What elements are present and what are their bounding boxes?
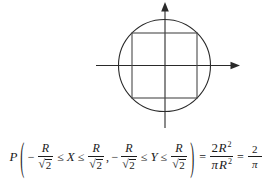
numerator-r: R xyxy=(218,140,227,155)
leq-sign-1: ≤ xyxy=(55,151,67,163)
denominator-sqrt2-2: √ 2 xyxy=(88,158,104,172)
leq-sign-2: ≤ xyxy=(75,151,87,163)
numerator-coefficient-2: 2 xyxy=(211,140,218,155)
denominator-sqrt2-1: √ 2 xyxy=(38,158,54,172)
radicand-2-3: 2 xyxy=(129,159,136,171)
equals-sign-1: = xyxy=(197,151,209,163)
radicand-2-4: 2 xyxy=(179,159,186,171)
denominator-sqrt2-4: √ 2 xyxy=(171,158,187,172)
x-axis-arrow-icon xyxy=(231,62,241,70)
numerator-exponent: 2 xyxy=(227,140,232,149)
radicand-2-1: 2 xyxy=(45,159,52,171)
sqrt-group-2: √ 2 xyxy=(89,158,103,171)
open-paren: ( xyxy=(18,137,26,177)
figure-container xyxy=(0,0,269,132)
leq-sign-3: ≤ xyxy=(138,151,150,163)
fraction-r-over-sqrt2-3: R √ 2 xyxy=(120,142,139,172)
close-paren: ) xyxy=(189,137,197,177)
probability-equation: P ( − R √ 2 ≤ X ≤ R √ 2 xyxy=(9,141,263,173)
leq-sign-4: ≤ xyxy=(158,151,170,163)
y-axis-arrow-icon xyxy=(161,2,169,12)
radical-sign-1: √ xyxy=(39,158,46,170)
sqrt-group-1: √ 2 xyxy=(39,158,53,171)
denominator-pi-r-squared: πR2 xyxy=(210,158,233,173)
numerator-2r-squared: 2R2 xyxy=(210,141,232,156)
equals-sign-2: = xyxy=(234,151,246,163)
equation-container: P ( − R √ 2 ≤ X ≤ R √ 2 xyxy=(0,132,269,181)
denominator-sqrt2-3: √ 2 xyxy=(121,158,137,172)
fraction-area-ratio: 2R2 πR2 xyxy=(208,141,234,173)
numerator-r-3: R xyxy=(124,142,133,156)
numerator-r-4: R xyxy=(174,142,183,156)
radicand-2-2: 2 xyxy=(96,159,103,171)
radical-sign-3: √ xyxy=(122,158,129,170)
minus-sign-1: − xyxy=(26,151,36,163)
numerator-r-1: R xyxy=(41,142,50,156)
numerator-r-2: R xyxy=(91,142,100,156)
radical-sign-2: √ xyxy=(89,158,96,170)
sqrt-group-4: √ 2 xyxy=(172,158,186,171)
sqrt-group-3: √ 2 xyxy=(122,158,136,171)
fraction-r-over-sqrt2-1: R √ 2 xyxy=(36,142,55,172)
fraction-r-over-sqrt2-2: R √ 2 xyxy=(87,142,106,172)
fraction-r-over-sqrt2-4: R √ 2 xyxy=(170,142,189,172)
result-denominator: π xyxy=(251,158,259,171)
variable-x: X xyxy=(66,150,75,163)
result-numerator: 2 xyxy=(251,143,259,156)
denominator-exponent: 2 xyxy=(227,157,232,166)
radical-sign-4: √ xyxy=(172,158,179,170)
fraction-result: 2 π xyxy=(246,143,263,170)
coordinate-diagram xyxy=(0,0,269,132)
minus-sign-2: − xyxy=(110,151,120,163)
probability-symbol: P xyxy=(9,150,18,163)
variable-y: Y xyxy=(150,150,158,163)
